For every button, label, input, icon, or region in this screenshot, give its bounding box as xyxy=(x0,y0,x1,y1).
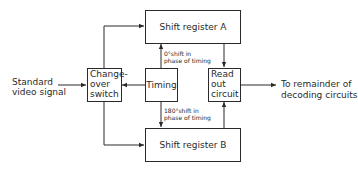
shift-register-a-label: Shift register A xyxy=(159,22,226,33)
output-label-line1: To remainder of xyxy=(281,79,351,90)
timing-block: Timing xyxy=(145,68,178,102)
shift-register-b-label: Shift register B xyxy=(159,140,226,151)
changeover-switch-block: Change- over switch xyxy=(87,68,122,102)
timing-label: Timing xyxy=(146,80,176,91)
changeover-switch-line3: switch xyxy=(90,89,119,100)
shift-register-a-block: Shift register A xyxy=(145,10,241,44)
input-label-line2: video signal xyxy=(12,87,66,98)
readout-circuit-block: Read out circuit xyxy=(208,68,241,102)
output-label-line2: decoding circuits xyxy=(281,90,358,101)
bottom-phase-annotation-line2: phase of timing xyxy=(164,114,211,122)
shift-register-b-block: Shift register B xyxy=(145,128,241,162)
top-phase-annotation-line2: phase of timing xyxy=(164,57,211,65)
readout-line3: circuit xyxy=(211,89,239,100)
